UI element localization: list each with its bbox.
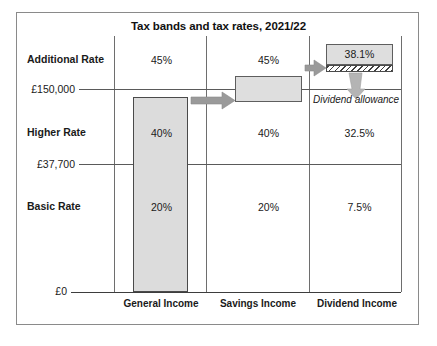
- rate-dividend-higher: 32.5%: [322, 127, 397, 139]
- threshold-label-37700: £37,700: [17, 158, 75, 170]
- savings-income-box: [235, 76, 302, 102]
- rate-savings-additional: 45%: [231, 54, 306, 66]
- dividend-allowance-annotation: Dividend allowance: [313, 94, 399, 105]
- band-label-additional-rate: Additional Rate: [27, 53, 104, 65]
- gridline-37700: [79, 164, 401, 165]
- rate-savings-basic: 20%: [231, 201, 306, 213]
- rate-dividend-basic: 7.5%: [322, 201, 397, 213]
- rate-savings-higher: 40%: [231, 127, 306, 139]
- rate-general-basic: 20%: [124, 201, 199, 213]
- arrow-general-to-savings: [191, 92, 235, 109]
- band-label-higher-rate: Higher Rate: [27, 126, 86, 138]
- chart-frame: Tax bands and tax rates, 2021/22: [16, 12, 419, 325]
- category-label-general-income: General Income: [121, 298, 201, 309]
- rate-general-additional: 45%: [124, 54, 199, 66]
- threshold-label-0: £0: [17, 285, 67, 297]
- plot-area: Additional Rate Higher Rate Basic Rate £…: [17, 13, 420, 326]
- rate-general-higher: 40%: [124, 127, 199, 139]
- gridline-baseline: [71, 292, 401, 293]
- category-label-dividend-income: Dividend Income: [314, 298, 400, 309]
- category-label-savings-income: Savings Income: [217, 298, 299, 309]
- dividend-allowance-hatch: [326, 65, 393, 72]
- band-label-basic-rate: Basic Rate: [27, 200, 81, 212]
- rate-dividend-additional: 38.1%: [322, 48, 397, 60]
- column-divider-right: [401, 36, 402, 292]
- threshold-label-150000: £150,000: [17, 83, 75, 95]
